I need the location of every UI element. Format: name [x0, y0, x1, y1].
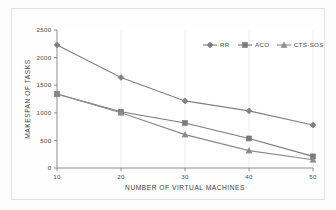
chart-page: 05001000150020002500 1020304050 RRACOCTS… — [0, 0, 336, 210]
legend-label-cts-sos: CTS-SOS — [294, 41, 324, 48]
y-tick-label-1500: 1500 — [37, 81, 52, 88]
y-tick-label-1000: 1000 — [37, 109, 52, 116]
y-axis-ticks: 05001000150020002500 — [37, 26, 57, 171]
legend-label-rr: RR — [220, 41, 230, 48]
legend-item-cts-sos[interactable]: CTS-SOS — [277, 41, 324, 48]
y-axis-title: MAKESPAN OF TASKS — [24, 59, 31, 138]
x-axis-ticks: 1020304050 — [53, 168, 317, 180]
x-tick-label-40: 40 — [245, 173, 253, 180]
y-tick-label-2500: 2500 — [37, 26, 52, 33]
x-tick-label-10: 10 — [53, 173, 61, 180]
x-tick-label-50: 50 — [309, 173, 317, 180]
x-tick-label-30: 30 — [181, 173, 189, 180]
y-tick-label-0: 0 — [48, 164, 52, 171]
chart-legend: RRACOCTS-SOS — [203, 41, 324, 48]
data-point-aco-30 — [183, 121, 188, 126]
x-axis-title: NUMBER OF VIRTUAL MACHINES — [125, 184, 245, 191]
legend-label-aco: ACO — [255, 41, 269, 48]
data-point-aco-40 — [247, 136, 252, 141]
legend-square-marker — [243, 43, 248, 48]
line-chart: 05001000150020002500 1020304050 RRACOCTS… — [0, 0, 336, 210]
y-tick-label-500: 500 — [40, 137, 51, 144]
x-tick-label-20: 20 — [117, 173, 125, 180]
y-tick-label-2000: 2000 — [37, 54, 52, 61]
